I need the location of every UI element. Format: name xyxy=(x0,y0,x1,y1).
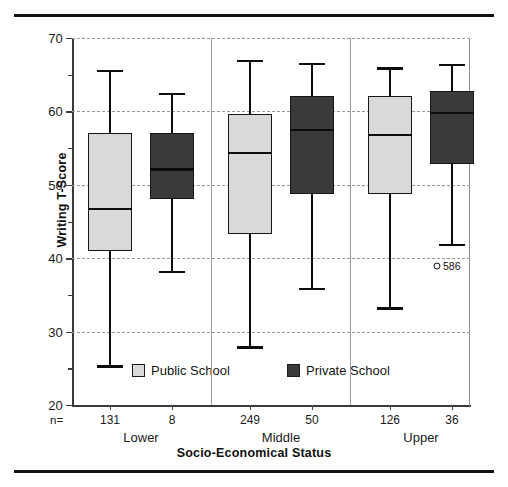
n-prefix-label: n= xyxy=(50,414,63,426)
n-value-box-upper-public: 126 xyxy=(380,413,400,427)
legend-entry-public: Public School xyxy=(132,363,230,378)
x-axis-title: Socio-Economical Status xyxy=(0,446,508,460)
boxplot-chart: Public School Private School 70605040302… xyxy=(0,0,508,487)
box-lower-private-cap-max xyxy=(159,93,185,95)
box-middle-public xyxy=(228,114,272,234)
y-tick-minor-35 xyxy=(68,295,72,296)
box-lower-public-cap-min xyxy=(97,365,123,367)
group-label-middle: Middle xyxy=(262,430,300,445)
box-middle-public-cap-max xyxy=(237,60,263,62)
n-value-box-middle-private: 50 xyxy=(305,413,318,427)
legend-entry-private: Private School xyxy=(287,363,390,378)
box-lower-public-cap-max xyxy=(97,70,123,72)
n-value-box-middle-public: 249 xyxy=(240,413,260,427)
box-upper-public-cap-min xyxy=(377,307,403,309)
x-tick-1 xyxy=(172,405,173,410)
box-upper-private-cap-max xyxy=(439,64,465,66)
n-value-box-lower-private: 8 xyxy=(169,413,176,427)
y-tick-70 xyxy=(66,38,72,39)
box-middle-private-median xyxy=(290,129,334,131)
y-tick-30 xyxy=(66,332,72,333)
y-tick-minor-55 xyxy=(68,148,72,149)
box-lower-private-cap-min xyxy=(159,271,185,273)
legend-label-private: Private School xyxy=(306,363,390,378)
y-tick-label-60: 60 xyxy=(48,104,63,119)
legend-swatch-public xyxy=(132,364,145,377)
legend-swatch-private xyxy=(287,364,300,377)
box-lower-public-median xyxy=(88,208,132,210)
y-tick-label-40: 40 xyxy=(48,251,63,266)
box-middle-private-cap-max xyxy=(299,63,325,65)
y-tick-minor-45 xyxy=(68,222,72,223)
x-tick-5 xyxy=(452,405,453,410)
x-tick-4 xyxy=(390,405,391,410)
y-tick-20 xyxy=(66,405,72,406)
y-tick-minor-65 xyxy=(68,75,72,76)
gridline-70 xyxy=(72,38,470,39)
y-tick-40 xyxy=(66,258,72,259)
box-upper-public xyxy=(368,96,412,194)
outlier-label-586: 586 xyxy=(443,260,461,272)
gridline-30 xyxy=(72,332,470,333)
gridline-40 xyxy=(72,258,470,259)
y-tick-minor-25 xyxy=(68,368,72,369)
x-tick-3 xyxy=(312,405,313,410)
n-value-box-lower-public: 131 xyxy=(100,413,120,427)
box-upper-public-median xyxy=(368,134,412,136)
group-label-upper: Upper xyxy=(403,430,438,445)
box-middle-private-cap-min xyxy=(299,288,325,290)
legend-label-public: Public School xyxy=(151,363,230,378)
y-tick-60 xyxy=(66,111,72,112)
box-upper-private-cap-min xyxy=(439,244,465,246)
y-tick-label-70: 70 xyxy=(48,31,63,46)
box-upper-private-median xyxy=(430,112,474,114)
outlier-point-586 xyxy=(434,262,441,269)
box-middle-public-cap-min xyxy=(237,346,263,348)
x-axis-line xyxy=(72,405,471,407)
y-tick-label-20: 20 xyxy=(48,398,63,413)
box-upper-public-cap-max xyxy=(377,67,403,69)
box-lower-private xyxy=(150,133,194,199)
box-middle-private xyxy=(290,96,334,194)
group-label-lower: Lower xyxy=(123,430,158,445)
x-tick-2 xyxy=(250,405,251,410)
box-upper-private xyxy=(430,91,474,164)
plot-area: Public School Private School 70605040302… xyxy=(72,38,470,405)
group-separator-1 xyxy=(211,38,212,405)
box-lower-public xyxy=(88,133,132,250)
y-axis-title: Writing T-Score xyxy=(55,152,69,247)
x-tick-0 xyxy=(110,405,111,410)
n-value-box-upper-private: 36 xyxy=(445,413,458,427)
box-lower-private-median xyxy=(150,168,194,170)
box-middle-public-median xyxy=(228,152,272,154)
group-separator-2 xyxy=(350,38,351,405)
y-tick-label-30: 30 xyxy=(48,324,63,339)
